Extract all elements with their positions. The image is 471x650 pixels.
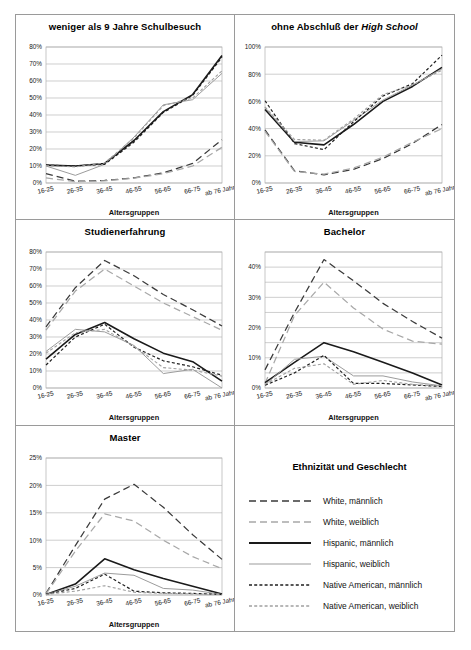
svg-text:46-55: 46-55 xyxy=(344,184,362,194)
svg-text:36-45: 36-45 xyxy=(95,390,113,400)
svg-text:66-75: 66-75 xyxy=(403,184,421,194)
svg-text:36-45: 36-45 xyxy=(95,184,113,194)
svg-text:20%: 20% xyxy=(248,152,261,159)
svg-text:70%: 70% xyxy=(29,266,42,273)
svg-text:10%: 10% xyxy=(29,368,42,375)
svg-text:Altersgruppen: Altersgruppen xyxy=(109,413,160,422)
svg-text:50%: 50% xyxy=(29,300,42,307)
legend-swatch-white_m xyxy=(249,495,311,507)
svg-text:40%: 40% xyxy=(29,111,42,118)
svg-text:26-35: 26-35 xyxy=(66,184,84,194)
legend-swatch-hisp_w xyxy=(249,558,311,570)
panel-schulbesuch: weniger als 9 Jahre Schulbesuch 0%10%20%… xyxy=(16,15,235,220)
svg-text:46-55: 46-55 xyxy=(125,390,143,400)
svg-text:ab 76 Jahre: ab 76 Jahre xyxy=(204,594,234,608)
svg-text:36-45: 36-45 xyxy=(315,390,333,400)
legend-item-white_m[interactable]: White, männlich xyxy=(249,491,444,512)
legend-swatch-native_m xyxy=(249,579,311,591)
svg-text:0%: 0% xyxy=(33,591,43,598)
svg-text:40%: 40% xyxy=(29,317,42,324)
svg-text:26-35: 26-35 xyxy=(285,184,303,194)
legend-item-native_w[interactable]: Native American, weiblich xyxy=(249,596,444,617)
svg-text:36-45: 36-45 xyxy=(315,184,333,194)
panel-studienerfahrung: Studienerfahrung 0%10%20%30%40%50%60%70%… xyxy=(16,220,235,425)
svg-text:36-45: 36-45 xyxy=(95,596,113,606)
legend-title: Ethnizität und Geschlecht xyxy=(249,462,444,472)
svg-text:5%: 5% xyxy=(33,564,43,571)
svg-text:56-65: 56-65 xyxy=(374,390,392,400)
svg-text:30%: 30% xyxy=(248,294,261,301)
svg-text:30%: 30% xyxy=(29,128,42,135)
legend-swatch-white_w xyxy=(249,516,311,528)
legend-item-hisp_w[interactable]: Hispanic, weiblich xyxy=(249,554,444,575)
svg-text:Altersgruppen: Altersgruppen xyxy=(328,208,379,217)
svg-text:20%: 20% xyxy=(248,324,261,331)
svg-text:0%: 0% xyxy=(252,179,262,186)
svg-text:80%: 80% xyxy=(29,43,42,50)
svg-text:46-55: 46-55 xyxy=(125,596,143,606)
svg-text:66-75: 66-75 xyxy=(183,596,201,606)
svg-text:40%: 40% xyxy=(248,125,261,132)
svg-text:30%: 30% xyxy=(29,334,42,341)
svg-text:26-35: 26-35 xyxy=(66,596,84,606)
svg-text:60%: 60% xyxy=(29,77,42,84)
svg-text:0%: 0% xyxy=(33,179,43,186)
figure-grid: weniger als 9 Jahre Schulbesuch 0%10%20%… xyxy=(15,14,455,632)
legend-item-hisp_m[interactable]: Hispanic, männlich xyxy=(249,533,444,554)
svg-text:26-35: 26-35 xyxy=(66,390,84,400)
svg-text:Altersgruppen: Altersgruppen xyxy=(328,413,379,422)
legend-label: Hispanic, weiblich xyxy=(323,559,390,569)
legend-label: Hispanic, männlich xyxy=(323,538,393,548)
svg-text:20%: 20% xyxy=(29,145,42,152)
svg-text:10%: 10% xyxy=(248,354,261,361)
chart-canvas-highschool: 0%20%40%60%80%100%16-2526-3536-4546-5556… xyxy=(235,27,454,219)
legend-label: Native American, weiblich xyxy=(323,601,418,611)
svg-text:56-65: 56-65 xyxy=(154,596,172,606)
svg-text:66-75: 66-75 xyxy=(403,390,421,400)
svg-text:80%: 80% xyxy=(248,71,261,78)
svg-text:56-65: 56-65 xyxy=(154,184,172,194)
legend-list: White, männlichWhite, weiblichHispanic, … xyxy=(249,491,444,617)
svg-text:60%: 60% xyxy=(248,98,261,105)
svg-text:ab 76 Jahre: ab 76 Jahre xyxy=(424,388,454,402)
svg-text:ab 76 Jahre: ab 76 Jahre xyxy=(424,183,454,197)
legend-label: White, männlich xyxy=(323,496,383,506)
svg-text:Altersgruppen: Altersgruppen xyxy=(109,620,160,629)
legend-item-white_w[interactable]: White, weiblich xyxy=(249,512,444,533)
svg-text:0%: 0% xyxy=(33,385,43,392)
svg-text:15%: 15% xyxy=(29,509,42,516)
svg-text:66-75: 66-75 xyxy=(183,390,201,400)
svg-text:100%: 100% xyxy=(245,43,262,50)
svg-text:60%: 60% xyxy=(29,283,42,290)
legend-swatch-hisp_m xyxy=(249,537,311,549)
chart-canvas-studienerfahrung: 0%10%20%30%40%50%60%70%80%16-2526-3536-4… xyxy=(16,232,234,424)
chart-canvas-master: 0%5%10%15%20%25%16-2526-3536-4546-5556-6… xyxy=(16,438,234,631)
svg-text:26-35: 26-35 xyxy=(285,390,303,400)
svg-text:25%: 25% xyxy=(29,454,42,461)
svg-text:10%: 10% xyxy=(29,162,42,169)
chart-canvas-schulbesuch: 0%10%20%30%40%50%60%70%80%16-2526-3536-4… xyxy=(16,27,234,219)
svg-text:20%: 20% xyxy=(29,351,42,358)
panel-legend: Ethnizität und Geschlecht White, männlic… xyxy=(235,426,454,631)
svg-text:56-65: 56-65 xyxy=(154,390,172,400)
chart-canvas-bachelor: 0%10%20%30%40%16-2526-3536-4546-5556-656… xyxy=(235,232,454,424)
svg-text:0%: 0% xyxy=(252,385,262,392)
panel-master: Master 0%5%10%15%20%25%16-2526-3536-4546… xyxy=(16,426,235,631)
svg-text:50%: 50% xyxy=(29,94,42,101)
legend-label: White, weiblich xyxy=(323,517,379,527)
legend-item-native_m[interactable]: Native American, männlich xyxy=(249,575,444,596)
panel-bachelor: Bachelor 0%10%20%30%40%16-2526-3536-4546… xyxy=(235,220,454,425)
svg-text:20%: 20% xyxy=(29,481,42,488)
svg-text:70%: 70% xyxy=(29,60,42,67)
legend-container: Ethnizität und Geschlecht White, männlic… xyxy=(235,426,454,631)
legend-swatch-native_w xyxy=(249,600,311,612)
svg-text:56-65: 56-65 xyxy=(374,184,392,194)
legend-label: Native American, männlich xyxy=(323,580,422,590)
svg-text:66-75: 66-75 xyxy=(183,184,201,194)
svg-text:80%: 80% xyxy=(29,249,42,256)
panel-highschool: ohne Abschluß der High School 0%20%40%60… xyxy=(235,15,454,220)
svg-text:46-55: 46-55 xyxy=(344,390,362,400)
svg-text:40%: 40% xyxy=(248,264,261,271)
svg-text:46-55: 46-55 xyxy=(125,184,143,194)
svg-text:Altersgruppen: Altersgruppen xyxy=(109,208,160,217)
